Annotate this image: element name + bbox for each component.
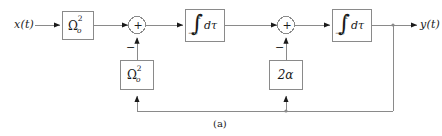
integral-lower-limit: −∞ <box>335 29 345 36</box>
bus-tap-alpha <box>284 109 287 112</box>
figure-caption: (a) <box>213 118 227 129</box>
integral-upper-limit: t <box>345 13 348 21</box>
omega-subscript: o <box>136 75 141 84</box>
summing-junction-2-feedback-sign: − <box>275 42 284 53</box>
figure-block-diagram: x(t) y(t) Ω2o ∫ t −∞ dτ ∫ t −∞ dτ + + − … <box>0 0 442 136</box>
output-signal-label: y(t) <box>420 18 440 31</box>
omega-superscript: 2 <box>137 64 142 73</box>
integral-differential: dτ <box>204 19 217 32</box>
bus-tap-output <box>391 23 394 26</box>
integral-upper-limit: t <box>198 13 201 21</box>
block-feedback-gain-alpha-label: 2α <box>269 60 302 89</box>
summing-junction-1-operator: + <box>134 20 143 31</box>
omega-superscript: 2 <box>78 14 83 23</box>
integral-lower-limit: −∞ <box>188 29 198 36</box>
omega-subscript: o <box>77 26 82 35</box>
block-forward-gain-label: Ω2o <box>62 11 93 39</box>
summing-junction-2-operator: + <box>283 20 292 31</box>
summing-junction-1-feedback-sign: − <box>126 42 135 53</box>
block-feedback-gain-omega-label: Ω2o <box>120 60 153 89</box>
integral-differential: dτ <box>351 19 364 32</box>
input-signal-label: x(t) <box>14 18 34 31</box>
